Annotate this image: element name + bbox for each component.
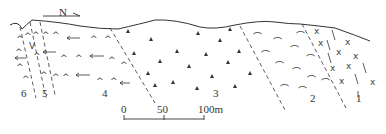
zone-label-2: 2 [310, 92, 316, 104]
zone-4-symbol: ^ [42, 31, 50, 40]
zone-6-symbol: ^ [16, 35, 24, 44]
scale-label-100m: 100m [198, 103, 223, 115]
zone-1-symbol: x [318, 39, 323, 48]
boundary-4-3 [110, 28, 155, 103]
zone-2-symbol: ⌒ [261, 51, 270, 60]
zone-2-symbol: ⌒ [321, 79, 330, 88]
zone-5-symbol: V [29, 42, 35, 51]
zone-2-symbol: ⌒ [290, 46, 299, 55]
zone-4-symbol: ^ [104, 35, 112, 44]
cross-section-svg [0, 0, 386, 134]
zone-3-triangles [126, 27, 252, 90]
zone-2-symbol: ⌒ [273, 38, 282, 47]
zone-4-symbol: ^ [52, 31, 60, 40]
boundary-2-1 [302, 24, 347, 110]
zone-label-5: 5 [42, 87, 48, 99]
north-label: N [59, 6, 67, 18]
zone-2-symbol: ⌒ [306, 55, 315, 64]
zone-1-symbol: x [314, 27, 319, 36]
zone-1-symbol: x [330, 64, 335, 73]
cross-section-diagram: ^ ^ ^ ^ ^ ^ V ^ ^ ^ ^ ^ ^ ^ ^ ^ ^ ^ ^ ^ … [0, 0, 386, 134]
zone-4-symbol: ^ [120, 61, 128, 70]
zone-2-symbol: ⌒ [296, 32, 305, 41]
zone-2-symbol: ⌒ [253, 33, 262, 42]
zone-4-symbol: ^ [90, 35, 98, 44]
zone-1-symbol: x [345, 38, 350, 47]
zone-2-symbol: ⌒ [298, 87, 307, 96]
zone-1-symbol: x [353, 52, 358, 61]
zone-4-symbol: ^ [62, 73, 70, 82]
zone-6-symbol: ^ [15, 48, 23, 57]
zone-4-symbol: ^ [110, 77, 118, 86]
zone-4-symbol: ^ [96, 77, 104, 86]
zone-2-symbol: ⌒ [280, 85, 289, 94]
zone-5-symbol: ^ [32, 31, 40, 40]
scale-label-50: 50 [157, 103, 168, 115]
zone-4-symbol: ^ [60, 54, 68, 63]
zone-6-symbol: ^ [22, 75, 30, 84]
zone-label-6: 6 [21, 87, 27, 99]
zone-5-symbol: ^ [40, 71, 48, 80]
zone-2-symbol: ⌒ [292, 68, 301, 77]
zone-2-symbol: ⌒ [307, 76, 316, 85]
zone-1-symbol: x [346, 62, 351, 71]
zone-6-symbol: ^ [24, 32, 32, 41]
zone-5-symbol: ^ [33, 52, 41, 61]
scale-label-0: 0 [121, 103, 127, 115]
zone-1-symbol: x [370, 78, 375, 87]
zone-1-symbol: x [336, 48, 341, 57]
zone-4-symbol: ^ [75, 54, 83, 63]
zone-1-symbol: x [339, 77, 344, 86]
zone-6-symbol: ^ [16, 63, 24, 72]
zone-4-symbol: ^ [108, 56, 116, 65]
zone-2-symbol: ⌒ [275, 62, 284, 71]
zone-label-4: 4 [102, 87, 108, 99]
zone-4-symbol: ^ [52, 73, 60, 82]
zone-label-3: 3 [213, 87, 219, 99]
zone-label-1: 1 [356, 92, 362, 104]
